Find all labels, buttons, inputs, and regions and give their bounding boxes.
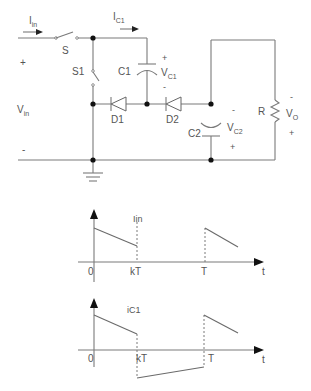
ic1-tick-kt: kT [136, 353, 147, 364]
r-label: R [258, 106, 265, 117]
d1-label: D1 [111, 114, 124, 125]
iin-tick-kt: kT [130, 266, 141, 277]
input-voltage-label: Vin [17, 104, 29, 117]
vc1-label: VC1 [161, 67, 177, 80]
ic1-xlabel: t [262, 354, 265, 365]
vc2-label: VC2 [227, 122, 243, 135]
ic1-x-axis-arrow-icon [254, 346, 264, 354]
ic1-tick-0: 0 [88, 353, 94, 364]
diode-d1-icon [111, 97, 126, 111]
cap-current-arrow-icon [120, 26, 139, 32]
d2-label: D2 [166, 114, 179, 125]
capacitor-c2-icon [201, 123, 221, 136]
iin-x-axis-arrow-icon [254, 258, 264, 266]
iin-tick-t: T [201, 266, 207, 277]
switch-s-label: S [62, 45, 69, 56]
ic1-segment-2 [137, 367, 204, 378]
cap-current-label: IC1 [113, 11, 125, 24]
ground-icon [83, 160, 103, 181]
junction-dots [90, 35, 213, 162]
iin-chart-title: Iin [133, 214, 143, 224]
vc2-minus: - [232, 105, 235, 115]
vo-label: VO [286, 108, 299, 121]
input-current-arrow-icon [23, 29, 43, 35]
vc1-minus: - [163, 82, 166, 92]
switch-s1-label: S1 [72, 66, 85, 77]
input-plus-label: + [20, 57, 26, 68]
iin-segment-2 [205, 228, 238, 247]
vo-minus: - [290, 92, 293, 102]
circuit-diagram: Iin S IC1 S1 + Vin - [17, 11, 299, 181]
iin-waveform-chart: Iin 0 kT T t [78, 209, 265, 282]
input-current-label: Iin [29, 15, 37, 28]
resistor-r-icon [271, 100, 279, 122]
iin-y-axis-arrow-icon [90, 209, 98, 219]
ic1-waveform-chart: iC1 0 kT T t [78, 298, 265, 378]
diode-d2-icon [166, 97, 181, 111]
circuit-and-waveforms: Iin S IC1 S1 + Vin - [0, 0, 311, 391]
switch-s [55, 32, 79, 39]
iin-xlabel: t [262, 266, 265, 277]
c1-label: C1 [118, 66, 131, 77]
ic1-chart-title: iC1 [127, 305, 141, 315]
vc2-plus: + [230, 142, 235, 152]
ic1-segment-3 [204, 315, 238, 333]
ic1-tick-t: T [208, 353, 214, 364]
iin-tick-0: 0 [88, 266, 94, 277]
switch-s1 [92, 70, 99, 87]
c2-label: C2 [188, 128, 201, 139]
input-minus-label: - [22, 144, 25, 155]
ic1-segment-1 [94, 315, 137, 334]
vc1-plus: + [162, 53, 167, 63]
vo-plus: + [289, 128, 294, 138]
iin-segment-1 [94, 228, 137, 246]
ic1-y-axis-arrow-icon [90, 298, 98, 308]
